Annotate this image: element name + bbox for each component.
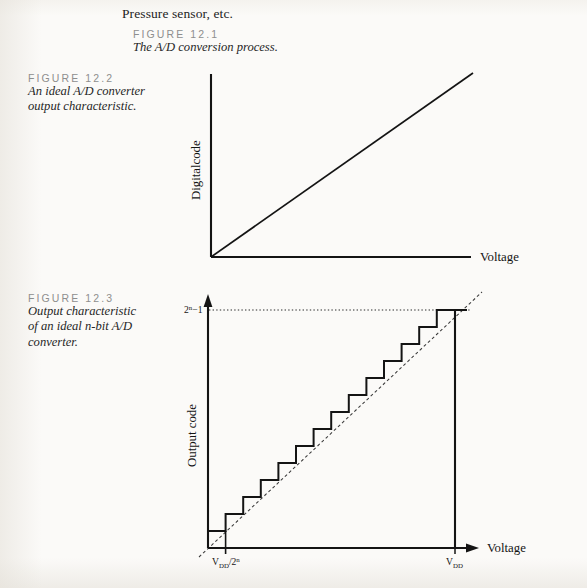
y-axis-title: Output code [185,404,199,467]
figure-12-3-caption: Output characteristic of an ideal n-bit … [28,304,146,350]
figure-12-3-caption-block: FIGURE 12.3 Output characteristic of an … [28,292,146,350]
x-tick-vdd-base: V [446,556,453,567]
ad-ideal-characteristic-svg: Digitalcode Voltage [186,60,546,275]
x-tick-label-lsb: VDD/2n [212,556,240,569]
figure-12-1-caption-block: FIGURE 12.1 The A/D conversion process. [133,28,293,55]
y-tick-label-full-scale: 2n−1 [184,304,203,315]
y-axis-arrowhead [204,294,213,307]
y-tick-tail: −1 [192,304,202,315]
figure-12-2-caption-block: FIGURE 12.2 An ideal A/D converter outpu… [28,72,146,115]
figure-12-2-label: FIGURE 12.2 [28,72,146,84]
y-axis-title: Digitalcode [189,140,203,200]
figure-12-1-caption: The A/D conversion process. [133,40,293,55]
figure-12-1-label: FIGURE 12.1 [133,28,293,40]
series-ideal-dashed-line [199,292,482,557]
x-tick-lsb-subscript: DD [219,562,229,569]
x-axis-title: Voltage [487,541,526,555]
x-axis-arrowhead [466,544,479,553]
ad-staircase-characteristic-svg: Output code Voltage 2n−1 VDD/2n VDD [182,282,562,582]
figure-12-3-label: FIGURE 12.3 [28,292,146,304]
x-axis-title: Voltage [480,250,519,264]
figure-12-2-caption: An ideal A/D converter output characteri… [28,84,146,115]
x-tick-lsb-base: V [212,556,219,567]
figure-12-3-chart: Output code Voltage 2n−1 VDD/2n VDD [182,282,562,582]
x-tick-label-vdd: VDD [446,556,463,569]
body-paragraph: Pressure sensor, etc. [122,6,233,22]
x-tick-lsb-exponent: n [236,556,240,563]
figure-12-2-chart: Digitalcode Voltage [186,60,546,275]
x-tick-vdd-subscript: DD [453,562,463,569]
series-staircase [208,310,467,548]
series-ideal-ramp [211,73,473,257]
